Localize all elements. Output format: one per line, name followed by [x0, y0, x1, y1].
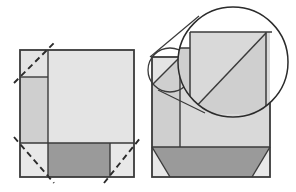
left-sheet-left-side-strip	[20, 77, 48, 143]
left-panel-unfolded-sheet	[14, 43, 141, 183]
left-sheet-main-field	[48, 50, 134, 143]
left-sheet-bottom-center-band	[48, 143, 110, 177]
right-sheet-bottom-band-trapezoid	[152, 147, 270, 177]
fold-diagram	[0, 0, 296, 192]
figure-root	[0, 0, 296, 192]
